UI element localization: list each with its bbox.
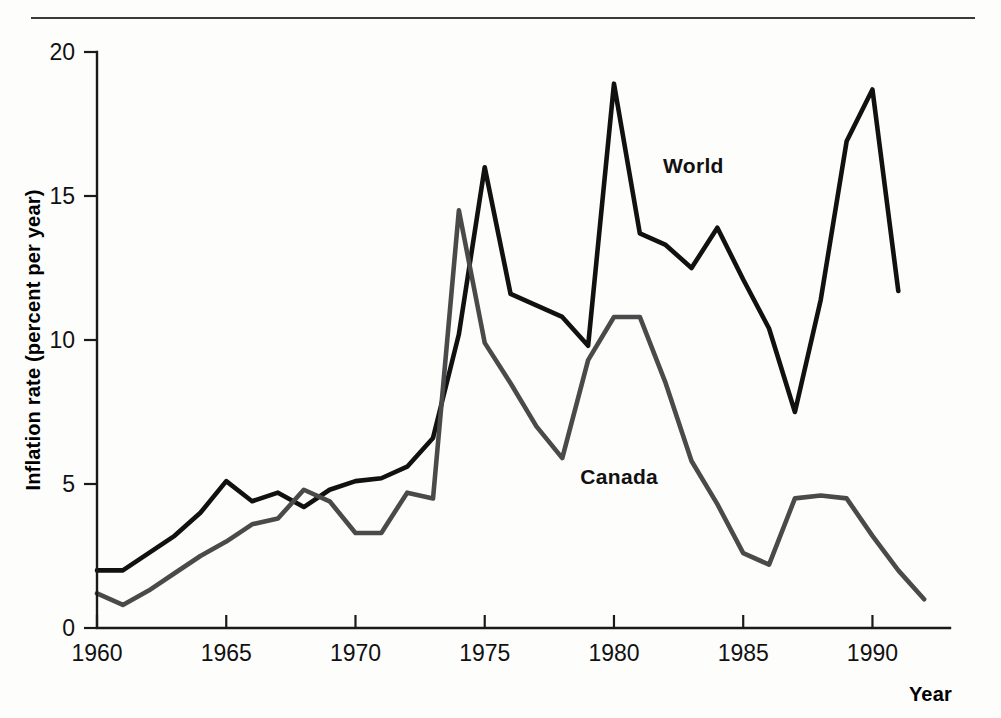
x-axis-tick-label: 1970 (330, 640, 381, 666)
y-axis-tick-label: 0 (62, 615, 75, 641)
y-axis-tick-label: 20 (49, 39, 75, 65)
series-line-canada (97, 210, 924, 605)
x-axis-tick-label: 1980 (588, 640, 639, 666)
inflation-line-chart: 051015201960196519701975198019851990Infl… (0, 0, 1001, 718)
label-group: 051015201960196519701975198019851990Infl… (22, 39, 952, 705)
series-group (97, 84, 924, 605)
series-line-world (97, 84, 898, 571)
y-axis-tick-label: 15 (49, 183, 75, 209)
chart-page: 051015201960196519701975198019851990Infl… (0, 0, 1001, 718)
x-axis-tick-label: 1975 (459, 640, 510, 666)
x-axis-tick-label: 1985 (718, 640, 769, 666)
x-axis-tick-label: 1990 (847, 640, 898, 666)
y-axis-title: Inflation rate (percent per year) (22, 189, 44, 490)
y-axis-tick-label: 5 (62, 471, 75, 497)
tick-group (84, 52, 872, 628)
x-axis-title: Year (909, 683, 952, 705)
y-axis-tick-label: 10 (49, 327, 75, 353)
x-axis-tick-label: 1965 (201, 640, 252, 666)
series-label-world: World (663, 154, 724, 177)
x-axis-tick-label: 1960 (71, 640, 122, 666)
chart-canvas: 051015201960196519701975198019851990Infl… (0, 0, 1001, 718)
series-label-canada: Canada (580, 465, 658, 488)
